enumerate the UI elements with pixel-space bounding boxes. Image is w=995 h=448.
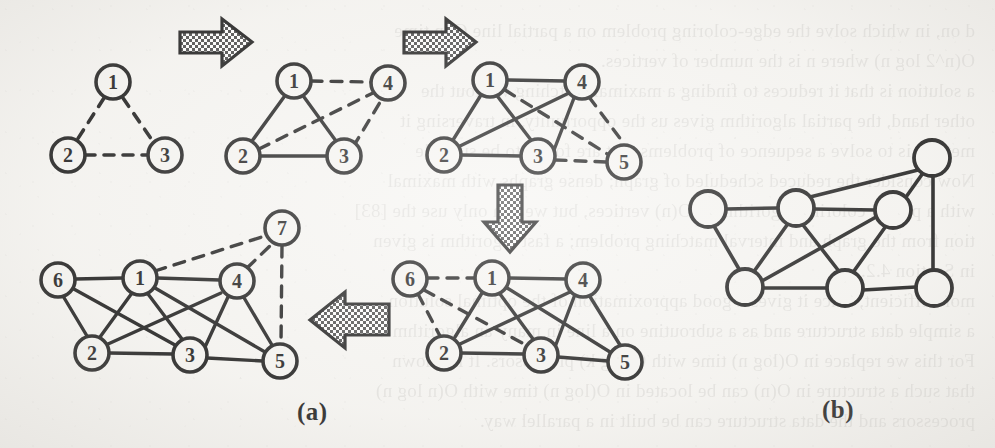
arrow-right-2	[404, 19, 476, 66]
graph-step-2: 1 2 3 4	[226, 64, 405, 173]
solid-edges	[453, 80, 574, 156]
node-label: 4	[232, 270, 242, 292]
graph-final-b	[690, 140, 952, 306]
node-label: 5	[619, 151, 629, 173]
node-label: 3	[533, 145, 543, 167]
node-label: 2	[439, 144, 449, 166]
node-label: 2	[87, 342, 97, 364]
node-label: 4	[577, 71, 587, 93]
figure-drawing: 1 2 3	[0, 0, 995, 448]
node-label: 4	[383, 72, 393, 94]
node-label: 3	[339, 145, 349, 167]
node-label: 1	[108, 71, 118, 93]
arrow-right-1	[180, 19, 252, 66]
node-label: 1	[135, 267, 145, 289]
node-label: 1	[487, 267, 497, 289]
node-label: 2	[63, 144, 73, 166]
caption-b: (b)	[822, 396, 854, 424]
node-label: 4	[578, 269, 588, 291]
node-label: 1	[485, 69, 495, 91]
node-label: 3	[185, 344, 195, 366]
node-label: 6	[405, 268, 415, 290]
node-label: 3	[160, 144, 170, 166]
node-label: 7	[277, 217, 287, 239]
graph-step-5: 1 2 3 4 5 6 7	[41, 211, 299, 378]
node-label: 2	[238, 145, 248, 167]
arrow-down-1	[484, 185, 536, 252]
node-label: 5	[620, 351, 630, 373]
node-label: 3	[536, 344, 546, 366]
dashed-edges	[77, 98, 152, 155]
node-label: 1	[289, 70, 299, 92]
dashed-edges	[259, 81, 382, 149]
nodes	[690, 140, 952, 306]
node-label: 5	[275, 350, 285, 372]
graph-step-1: 1 2 3	[51, 65, 182, 172]
graph-step-4: 1 2 3 4 5 6	[393, 261, 642, 379]
node-label: 2	[439, 342, 449, 364]
arrow-left-1	[310, 292, 389, 348]
graph-step-3: 1 2 3 4 5	[427, 63, 641, 179]
figure-page: d on, in which solve the edge-coloring p…	[0, 0, 995, 448]
node-label: 6	[53, 269, 63, 291]
caption-a: (a)	[297, 398, 328, 426]
